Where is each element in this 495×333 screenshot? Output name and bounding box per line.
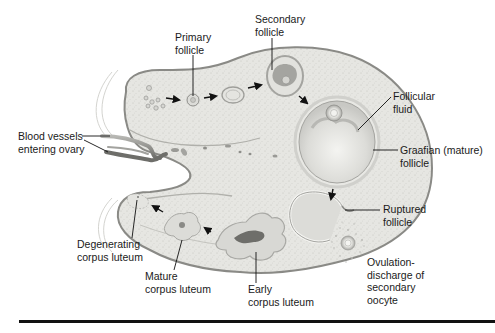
label-follicular-fluid: Follicular fluid — [393, 90, 435, 115]
growing-follicle — [222, 87, 244, 103]
label-secondary-follicle: Secondary follicle — [255, 13, 305, 38]
graafian-follicle — [295, 97, 379, 187]
label-graafian-follicle: Graafian (mature) follicle — [400, 144, 483, 169]
label-ruptured-follicle: Ruptured follicle — [383, 203, 426, 228]
figure-bottom-rule — [19, 320, 495, 323]
label-degenerating-corpus-luteum: Degenerating corpus luteum — [77, 238, 143, 263]
label-early-corpus-luteum: Early corpus luteum — [248, 283, 314, 308]
label-blood-vessels: Blood vessels entering ovary — [18, 130, 85, 155]
label-primary-follicle: Primary follicle — [175, 31, 211, 56]
label-ovulation: Ovulation- discharge of secondary oocyte — [367, 256, 424, 306]
label-mature-corpus-luteum: Mature corpus luteum — [145, 270, 211, 295]
ligament-wisps — [96, 70, 118, 252]
